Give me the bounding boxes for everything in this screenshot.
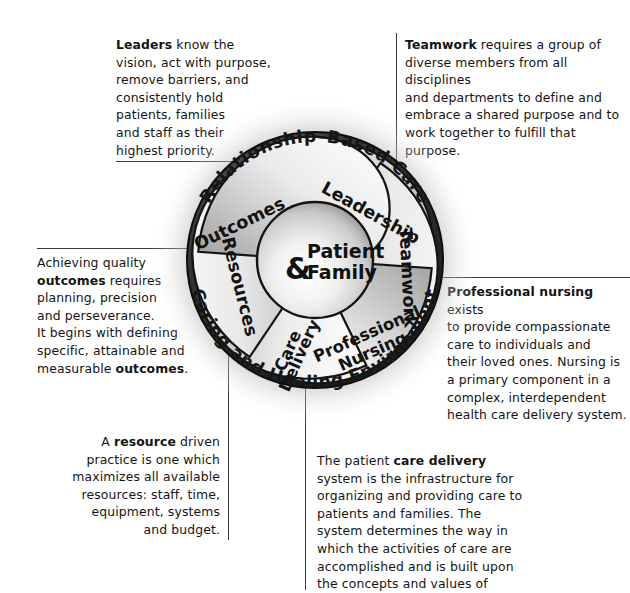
callout-leaders-keyword: Leaders [116, 37, 172, 52]
hub-line-2: Family [307, 261, 378, 283]
callout-teamwork-line-1: Teamwork requires a group of [405, 36, 627, 54]
callout-resource-rule [228, 430, 229, 540]
relationship-based-care-wheel: & Patient Family Leadership Teamwork Pro… [150, 95, 480, 425]
callout-cd-line-4: patients and families. The [317, 505, 547, 523]
callout-cd-line-2: system is the infrastructure for [317, 470, 547, 488]
callout-resource-line-1: A resource driven [60, 433, 220, 451]
callout-cd-prefix: The patient [317, 453, 394, 468]
hub-line-1: Patient [307, 240, 384, 262]
callout-cd-line-7: accomplished and is built upon [317, 558, 547, 576]
callout-care-delivery-rule [305, 438, 306, 590]
callout-leaders-text-1: know the [172, 37, 234, 52]
callout-resource-suffix: driven [176, 434, 220, 449]
callout-teamwork-keyword: Teamwork [405, 37, 477, 52]
callout-resource-keyword: resource [114, 434, 176, 449]
callout-resource-line-6: and budget. [60, 521, 220, 539]
callout-cd-line-8: the concepts and values of [317, 575, 547, 593]
callout-leaders-line-2: vision, act with purpose, [116, 54, 306, 72]
callout-outcomes-keyword: outcomes [37, 273, 106, 288]
callout-teamwork-text-1: requires a group of [477, 37, 601, 52]
callout-resource-prefix: A [101, 434, 114, 449]
callout-cd-line-3: organizing and providing care to [317, 487, 547, 505]
callout-cd-line-6: which the activities of care are [317, 540, 547, 558]
callout-resource-line-3: maximizes all available [60, 468, 220, 486]
callout-resource-line-4: resources: staff, time, [60, 486, 220, 504]
callout-resource-line-5: equipment, systems [60, 503, 220, 521]
callout-leaders-line-3: remove barriers, and [116, 71, 306, 89]
callout-leaders-line-1: Leaders know the [116, 36, 306, 54]
callout-cd-line-5: system determines the way in [317, 522, 547, 540]
callout-outcomes-last-prefix: measurable [37, 361, 116, 376]
callout-resource-line-2: practice is one which [60, 451, 220, 469]
callout-cd-keyword: care delivery [394, 453, 487, 468]
callout-resource: A resource driven practice is one which … [60, 433, 220, 539]
callout-care-delivery: The patient care delivery system is the … [317, 452, 547, 593]
callout-teamwork-line-2: diverse members from all disciplines [405, 54, 627, 89]
callout-cd-line-1: The patient care delivery [317, 452, 547, 470]
